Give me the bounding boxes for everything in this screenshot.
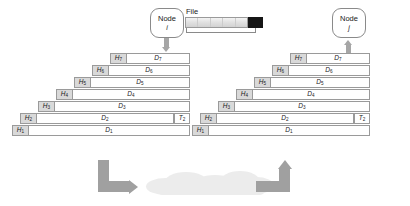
- chunk-row[interactable]: H7 D7: [110, 53, 190, 64]
- source-flow-arrow-icon: [162, 38, 171, 52]
- chunk-header-cell: H1: [12, 125, 28, 136]
- file-tail-block: [248, 17, 263, 28]
- source-node-sub: i: [166, 24, 168, 31]
- chunk-data-cell: D2: [36, 113, 174, 124]
- chunk-row[interactable]: H2 D2 T2: [20, 113, 190, 124]
- chunk-row[interactable]: H1 D1: [192, 125, 370, 136]
- chunk-row[interactable]: H4 D4: [56, 89, 190, 100]
- chunk-header-cell: H5: [254, 77, 270, 88]
- file-segment: [186, 18, 198, 27]
- chunk-header-cell: H2: [200, 113, 216, 124]
- chunk-data-cell: D3: [54, 101, 190, 112]
- chunk-data-cell: D5: [270, 77, 370, 88]
- diagram-canvas: Node i File H7 D7 H6 D6 H5 D5 H4 D4 H3 D…: [0, 0, 410, 206]
- file-segment: [198, 18, 210, 27]
- chunk-data-cell: D4: [72, 89, 190, 100]
- chunk-header-cell: H1: [192, 125, 208, 136]
- file-caption: File: [186, 7, 198, 16]
- destination-node-sub: j: [348, 24, 350, 31]
- chunk-row[interactable]: H5 D5: [74, 77, 190, 88]
- file-segment: [236, 18, 247, 27]
- chunk-header-cell: H4: [236, 89, 252, 100]
- chunk-header-cell: H4: [56, 89, 72, 100]
- chunk-header-cell: H3: [218, 101, 234, 112]
- chunk-row[interactable]: H2 D2 T2: [200, 113, 370, 124]
- chunk-data-cell: D7: [126, 53, 190, 64]
- destination-flow-arrow-icon: [344, 40, 353, 53]
- chunk-data-cell: D7: [306, 53, 370, 64]
- chunk-row[interactable]: H6 D6: [92, 65, 190, 76]
- destination-node[interactable]: Node j: [332, 8, 366, 38]
- inbound-transfer-arrow-icon: [256, 158, 314, 200]
- chunk-data-cell: D5: [90, 77, 190, 88]
- chunk-header-cell: H2: [20, 113, 36, 124]
- file-bar: [185, 17, 248, 28]
- chunk-data-cell: D1: [28, 125, 190, 136]
- file-connector-horizontal: [186, 32, 256, 33]
- destination-node-label: Node: [340, 15, 358, 23]
- chunk-row[interactable]: H7 D7: [290, 53, 370, 64]
- chunk-header-cell: H5: [74, 77, 90, 88]
- chunk-row[interactable]: H3 D3: [218, 101, 370, 112]
- chunk-header-cell: H6: [92, 65, 108, 76]
- chunk-data-cell: D6: [108, 65, 190, 76]
- chunk-row[interactable]: H6 D6: [272, 65, 370, 76]
- chunk-data-cell: D6: [288, 65, 370, 76]
- chunk-header-cell: H3: [38, 101, 54, 112]
- chunk-row[interactable]: H3 D3: [38, 101, 190, 112]
- file-segment: [211, 18, 223, 27]
- file-connector-elbow: [186, 28, 187, 33]
- chunk-data-cell: D4: [252, 89, 370, 100]
- file-segment: [223, 18, 235, 27]
- chunk-header-cell: H7: [110, 53, 126, 64]
- source-node-label: Node: [158, 15, 176, 23]
- chunk-row[interactable]: H4 D4: [236, 89, 370, 100]
- chunk-data-cell: D2: [216, 113, 354, 124]
- chunk-tail-cell: T2: [174, 113, 190, 124]
- source-node[interactable]: Node i: [150, 8, 184, 38]
- chunk-row[interactable]: H1 D1: [12, 125, 190, 136]
- outbound-transfer-arrow-icon: [98, 160, 156, 200]
- chunk-header-cell: H7: [290, 53, 306, 64]
- chunk-tail-cell: T2: [354, 113, 370, 124]
- chunk-data-cell: D3: [234, 101, 370, 112]
- chunk-data-cell: D1: [208, 125, 370, 136]
- chunk-row[interactable]: H5 D5: [254, 77, 370, 88]
- chunk-header-cell: H6: [272, 65, 288, 76]
